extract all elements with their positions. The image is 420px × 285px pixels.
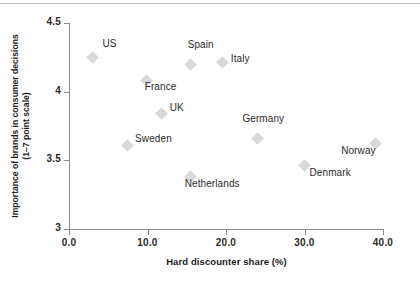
- x-axis-title: Hard discounter share (%): [69, 256, 384, 267]
- data-point-label: Sweden: [135, 133, 172, 144]
- data-point-marker: [216, 56, 229, 69]
- data-point-label: UK: [170, 102, 184, 113]
- y-tick-mark: [64, 23, 69, 24]
- data-point-label: Spain: [188, 39, 214, 50]
- data-point-marker: [184, 58, 197, 71]
- y-axis-title-line1: Importance of brands in consumer decisio…: [10, 34, 21, 217]
- scatter-plot-figure: 0.010.020.030.040.0 33.544.5 Hard discou…: [0, 0, 420, 285]
- top-divider: [0, 3, 420, 4]
- x-tick-mark: [305, 230, 306, 235]
- y-tick-mark: [64, 160, 69, 161]
- y-tick-mark: [64, 229, 69, 230]
- data-point-marker: [121, 139, 134, 152]
- x-tick-mark: [69, 230, 70, 235]
- x-tick-label: 10.0: [123, 237, 173, 248]
- x-tick-mark: [226, 230, 227, 235]
- y-axis-title-line2: (1–7 point scale): [21, 34, 32, 217]
- y-axis-title: Importance of brands in consumer decisio…: [8, 23, 34, 229]
- data-point-marker: [155, 107, 168, 120]
- y-tick-mark: [64, 92, 69, 93]
- data-point-label: Netherlands: [185, 178, 240, 189]
- data-point-label: Denmark: [310, 167, 351, 178]
- data-point-label: US: [103, 38, 117, 49]
- x-tick-label: 20.0: [201, 237, 251, 248]
- data-point-marker: [86, 51, 99, 64]
- data-point-label: Italy: [231, 53, 250, 64]
- data-point-marker: [251, 132, 264, 145]
- x-tick-label: 40.0: [358, 237, 408, 248]
- x-tick-label: 0.0: [44, 237, 94, 248]
- y-axis-line: [69, 23, 70, 230]
- x-tick-label: 30.0: [280, 237, 330, 248]
- x-tick-mark: [383, 230, 384, 235]
- x-tick-mark: [148, 230, 149, 235]
- data-point-label: Germany: [242, 113, 284, 124]
- data-point-label: France: [145, 81, 177, 92]
- data-point-label: Norway: [341, 145, 376, 156]
